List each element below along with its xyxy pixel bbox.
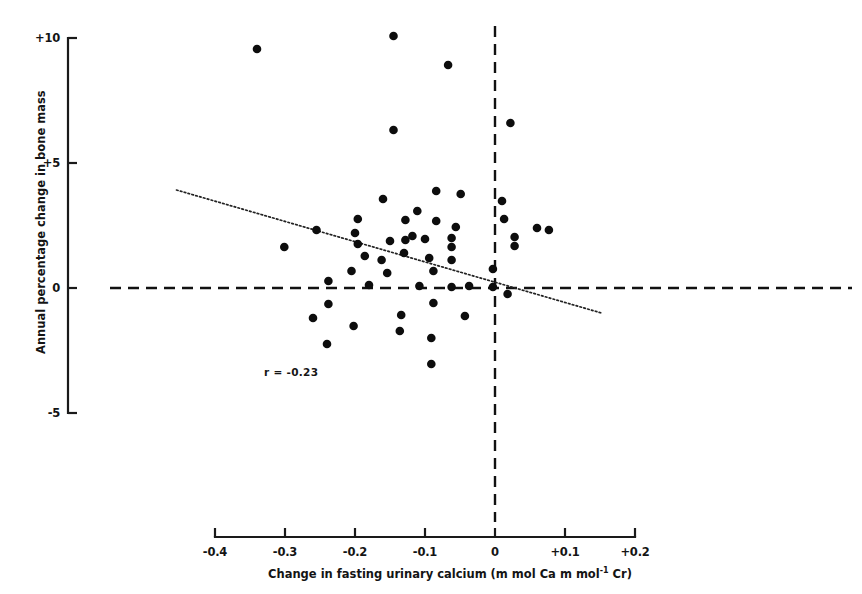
data-point bbox=[379, 195, 388, 204]
data-point bbox=[429, 299, 438, 308]
x-tick-label: +0.1 bbox=[537, 545, 593, 559]
data-point bbox=[351, 229, 360, 238]
x-tick-label: -0.1 bbox=[397, 545, 453, 559]
data-point bbox=[386, 237, 395, 246]
data-point bbox=[461, 312, 470, 321]
data-point bbox=[354, 215, 363, 224]
data-point bbox=[421, 235, 430, 244]
data-point bbox=[415, 282, 424, 291]
data-point bbox=[354, 240, 363, 249]
y-axis-title: Annual percentage change in bone mass bbox=[34, 94, 48, 354]
data-point bbox=[489, 283, 498, 292]
data-point bbox=[389, 126, 398, 135]
data-point bbox=[323, 340, 332, 349]
data-point bbox=[429, 267, 438, 276]
x-tick-label: -0.3 bbox=[257, 545, 313, 559]
data-point bbox=[324, 277, 333, 286]
x-axis-title-exponent: -1 bbox=[600, 566, 609, 575]
scatter-plot-figure: +10+50-5 -0.4-0.3-0.2-0.10+0.1+0.2 Annua… bbox=[0, 0, 862, 594]
y-tick-label: -5 bbox=[18, 406, 60, 420]
data-point bbox=[408, 232, 417, 241]
data-point bbox=[349, 322, 358, 331]
data-point bbox=[498, 197, 507, 206]
data-point bbox=[444, 61, 453, 70]
trend-line-group bbox=[177, 190, 602, 313]
correlation-annotation: r = -0.23 bbox=[264, 366, 318, 378]
data-point bbox=[500, 215, 509, 224]
x-tick-label: 0 bbox=[467, 545, 523, 559]
data-points-group bbox=[253, 32, 554, 369]
data-point bbox=[365, 281, 374, 290]
data-point bbox=[489, 265, 498, 274]
data-point bbox=[452, 223, 461, 232]
data-point bbox=[456, 190, 465, 199]
data-point bbox=[361, 252, 370, 261]
data-point bbox=[447, 234, 456, 243]
data-point bbox=[447, 256, 456, 265]
data-point bbox=[253, 45, 262, 54]
data-point bbox=[465, 282, 474, 291]
data-point bbox=[510, 233, 519, 242]
data-point bbox=[447, 283, 456, 292]
data-point bbox=[377, 256, 386, 265]
x-axis-title: Change in fasting urinary calcium (m mol… bbox=[150, 566, 750, 581]
data-point bbox=[397, 311, 406, 320]
data-point bbox=[545, 226, 554, 235]
data-point bbox=[413, 207, 422, 216]
x-tick-label: -0.2 bbox=[327, 545, 383, 559]
x-axis-title-tail: Cr) bbox=[609, 567, 632, 581]
data-point bbox=[324, 300, 333, 309]
data-point bbox=[510, 242, 519, 251]
data-point bbox=[533, 224, 542, 233]
data-point bbox=[400, 249, 409, 258]
reference-lines-group bbox=[110, 26, 852, 522]
x-tick-label: -0.4 bbox=[187, 545, 243, 559]
y-tick-label: +10 bbox=[18, 31, 60, 45]
x-axis-title-main: Change in fasting urinary calcium (m mol… bbox=[268, 567, 600, 581]
data-point bbox=[503, 290, 512, 299]
data-point bbox=[280, 243, 289, 252]
data-point bbox=[506, 119, 515, 128]
data-point bbox=[427, 360, 436, 369]
data-point bbox=[312, 226, 321, 235]
x-tick-label: +0.2 bbox=[607, 545, 663, 559]
regression-trend-line bbox=[177, 190, 602, 313]
data-point bbox=[425, 254, 434, 263]
data-point bbox=[432, 187, 441, 196]
plot-canvas bbox=[0, 0, 862, 594]
data-point bbox=[396, 327, 405, 336]
data-point bbox=[347, 267, 356, 276]
data-point bbox=[383, 269, 392, 278]
data-point bbox=[447, 243, 456, 252]
data-point bbox=[401, 216, 410, 225]
data-point bbox=[309, 314, 318, 323]
data-point bbox=[432, 217, 441, 226]
data-point bbox=[427, 334, 436, 343]
data-point bbox=[389, 32, 398, 41]
